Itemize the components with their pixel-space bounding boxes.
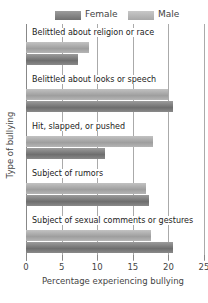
bar-male [26,89,168,100]
x-tick-label: 15 [127,262,138,272]
x-tick-label: 0 [23,262,28,272]
x-tick-mark [26,255,27,260]
legend-swatch-male [128,11,154,20]
x-tick-mark [97,255,98,260]
bar-male [26,183,146,194]
bar-group: Hit, slapped, or pushed [26,122,204,169]
bar-group: Subject of sexual comments or gestures [26,216,204,263]
bar-group: Belittled about looks or speech [26,75,204,122]
bar-group: Subject of rumors [26,169,204,216]
x-tick-label: 5 [59,262,64,272]
gridline [204,24,205,261]
x-axis-label: Percentage experiencing bullying [0,276,208,286]
x-tick-mark [62,255,63,260]
legend-label-female: Female [85,9,118,19]
legend: Female Male [0,8,208,22]
bar-female [26,242,173,253]
bar-female [26,54,78,65]
x-tick-mark [204,255,205,260]
bar-female [26,101,173,112]
category-label: Subject of sexual comments or gestures [32,216,195,225]
category-label: Belittled about looks or speech [32,75,158,84]
bar-male [26,136,153,147]
x-tick-mark [133,255,134,260]
bar-male [26,230,151,241]
category-label: Belittled about religion or race [32,28,156,37]
x-tick-label: 10 [92,262,103,272]
bar-female [26,148,105,159]
x-tick-label: 25 [199,262,208,272]
bar-male [26,42,89,53]
legend-swatch-female [55,11,81,20]
legend-label-male: Male [158,9,179,19]
bar-group: Belittled about religion or race [26,28,204,75]
bar-female [26,195,149,206]
x-tick-label: 20 [163,262,174,272]
category-label: Hit, slapped, or pushed [32,122,127,131]
category-label: Subject of rumors [32,169,105,178]
y-axis-label: Type of bullying [5,95,15,195]
plot-area: Belittled about religion or raceBelittle… [26,24,204,261]
x-tick-mark [168,255,169,260]
